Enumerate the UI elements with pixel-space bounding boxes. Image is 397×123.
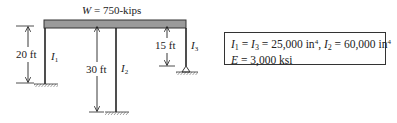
column-2-label: I2 (120, 62, 129, 76)
dimension-label-30ft: 30 ft (86, 63, 106, 75)
section-properties-box: I1 = I3 = 25,000 in4, I2 = 60,000 in4 E … (224, 32, 386, 65)
fixed-support-1-icon (34, 84, 58, 87)
column-3-label: I3 (190, 39, 199, 53)
dimension-label-20ft: 20 ft (16, 48, 36, 60)
frame-diagram: W = 750-kips I1 20 ft I2 30 ft I3 15 ft (0, 0, 220, 123)
moment-of-inertia-line: I1 = I3 = 25,000 in4, I2 = 60,000 in4 (231, 36, 385, 54)
beam (44, 20, 186, 28)
load-label: W = 750-kips (82, 4, 141, 16)
dimension-label-15ft: 15 ft (155, 39, 175, 51)
column-1-label: I1 (50, 50, 59, 64)
modulus-line: E = 3,000 ksi (231, 54, 385, 67)
pin-support-icon (182, 66, 190, 72)
fixed-support-2-icon (105, 112, 129, 115)
